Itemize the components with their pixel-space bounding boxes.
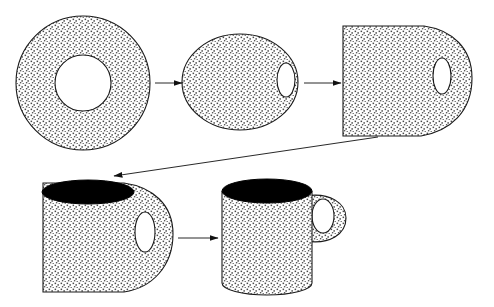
mug-body-stipple-fill: [0, 0, 494, 307]
topology-figure: [0, 0, 494, 307]
stage-coffee-mug: [0, 0, 494, 307]
figure-canvas: [0, 0, 494, 307]
mug-cavity-opening: [222, 179, 312, 203]
